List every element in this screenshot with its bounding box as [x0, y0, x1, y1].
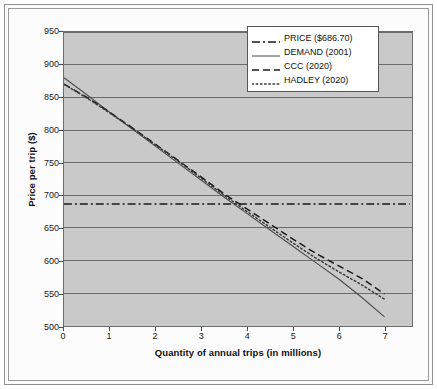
- chart-legend: PRICE ($686.70)DEMAND (2001)CCC (2020)HA…: [247, 26, 379, 92]
- x-tick-label: 0: [60, 331, 65, 341]
- x-tick-mark: [339, 327, 340, 331]
- legend-label: CCC (2020): [284, 61, 332, 71]
- y-tick-mark: [59, 31, 63, 32]
- x-tick-mark: [385, 327, 386, 331]
- x-tick-mark: [155, 327, 156, 331]
- legend-swatch-solid-icon: [252, 47, 280, 57]
- chart-canvas: 950900850800750700650600550500 01234567 …: [9, 9, 432, 384]
- y-tick-label: 550: [25, 290, 59, 299]
- y-tick-mark: [59, 130, 63, 131]
- legend-entry: DEMAND (2001): [252, 45, 373, 59]
- x-tick-mark: [109, 327, 110, 331]
- chart-inner-frame: 950900850800750700650600550500 01234567 …: [8, 8, 429, 381]
- x-tick-label: 7: [383, 331, 388, 341]
- x-tick-label: 4: [245, 331, 250, 341]
- y-tick-mark: [59, 97, 63, 98]
- legend-entry: PRICE ($686.70): [252, 31, 373, 45]
- x-axis-tick-labels: 01234567: [63, 331, 413, 345]
- y-tick-label: 900: [25, 59, 59, 68]
- series-line-2: [64, 84, 385, 294]
- y-tick-mark: [59, 64, 63, 65]
- x-tick-mark: [293, 327, 294, 331]
- x-tick-mark: [201, 327, 202, 331]
- y-tick-mark: [59, 195, 63, 196]
- legend-swatch-dash-dot-icon: [252, 33, 280, 43]
- series-line-3: [64, 84, 385, 299]
- legend-label: PRICE ($686.70): [284, 33, 353, 43]
- y-tick-mark: [59, 228, 63, 229]
- y-axis-title: Price per trip ($): [26, 90, 37, 250]
- legend-swatch-dotted-icon: [252, 75, 280, 85]
- y-tick-mark: [59, 261, 63, 262]
- y-tick-mark: [59, 163, 63, 164]
- y-tick-label: 600: [25, 257, 59, 266]
- legend-swatch-dashed-icon: [252, 61, 280, 71]
- chart-outer-frame: 950900850800750700650600550500 01234567 …: [4, 4, 433, 385]
- x-tick-label: 6: [337, 331, 342, 341]
- x-axis-title: Quantity of annual trips (in millions): [63, 347, 413, 358]
- legend-label: HADLEY (2020): [284, 75, 348, 85]
- y-tick-mark: [59, 294, 63, 295]
- legend-entry: HADLEY (2020): [252, 73, 373, 87]
- x-tick-label: 2: [153, 331, 158, 341]
- legend-entry: CCC (2020): [252, 59, 373, 73]
- x-tick-mark: [63, 327, 64, 331]
- x-tick-mark: [247, 327, 248, 331]
- x-tick-label: 3: [199, 331, 204, 341]
- legend-label: DEMAND (2001): [284, 47, 352, 57]
- y-tick-label: 500: [25, 323, 59, 332]
- x-tick-label: 5: [291, 331, 296, 341]
- x-tick-label: 1: [107, 331, 112, 341]
- y-tick-label: 950: [25, 27, 59, 36]
